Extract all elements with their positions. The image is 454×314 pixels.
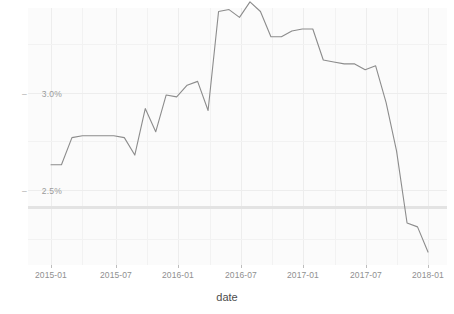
x-tick-mark [241, 265, 242, 268]
x-tick-mark [366, 265, 367, 268]
x-tick-label-2016-07: 2016-07 [225, 270, 257, 280]
plot-panel [28, 8, 447, 265]
x-tick-mark [428, 265, 429, 268]
x-tick-mark [303, 265, 304, 268]
x-tick-label-2015-01: 2015-01 [35, 270, 67, 280]
y-tick-label-2-5: 2.5% [42, 186, 62, 196]
x-tick-label-2018-01: 2018-01 [412, 270, 444, 280]
x-tick-label-2015-07: 2015-07 [100, 270, 132, 280]
y-tick-dash: – [22, 89, 27, 99]
x-tick-label-2017-01: 2017-01 [287, 270, 319, 280]
y-tick-label-3-0: 3.0% [42, 89, 62, 99]
x-tick-mark [116, 265, 117, 268]
series-line-rate [28, 8, 447, 265]
x-tick-mark [178, 265, 179, 268]
x-tick-label-2017-07: 2017-07 [350, 270, 382, 280]
line-chart: 3.0% – 2.5% – 2015-01 2015-07 2016-01 20… [0, 0, 454, 314]
y-tick-dash: – [22, 186, 27, 196]
x-tick-mark [51, 265, 52, 268]
x-axis-title: date [0, 291, 454, 303]
x-tick-label-2016-01: 2016-01 [162, 270, 194, 280]
